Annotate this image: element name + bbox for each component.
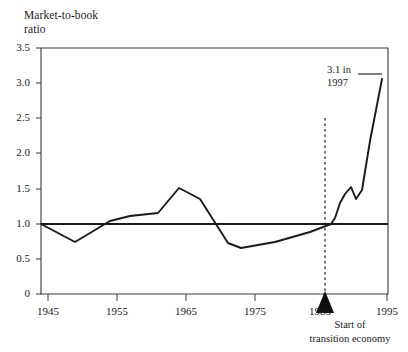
y-tick-label-2-5: 2.5	[2, 111, 30, 123]
chart-canvas	[0, 0, 408, 352]
y-tick-label-1-0: 1.0	[2, 217, 30, 229]
peak-callout-label: 3.1 in 1997	[327, 63, 351, 89]
y-tick-label-2-0: 2.0	[2, 146, 30, 158]
x-tick-label-1985: 1985	[300, 305, 340, 317]
y-axis-ticks	[36, 48, 41, 294]
market-to-book-series	[41, 79, 382, 248]
x-tick-label-1955: 1955	[97, 305, 137, 317]
x-tick-label-1995: 1995	[367, 305, 407, 317]
transition-marker-label: Start of transition economy	[292, 318, 408, 346]
y-tick-label-0-5: 0.5	[2, 252, 30, 264]
x-tick-label-1965: 1965	[166, 305, 206, 317]
y-tick-label-3-5: 3.5	[2, 41, 30, 53]
y-tick-label-1-5: 1.5	[2, 182, 30, 194]
market-to-book-chart: Market-to-book ratio	[0, 0, 408, 352]
x-tick-label-1975: 1975	[235, 305, 275, 317]
y-tick-label-0: 0	[2, 287, 30, 299]
x-tick-label-1945: 1945	[28, 305, 68, 317]
x-axis-ticks	[48, 294, 387, 301]
y-tick-label-3-0: 3.0	[2, 76, 30, 88]
